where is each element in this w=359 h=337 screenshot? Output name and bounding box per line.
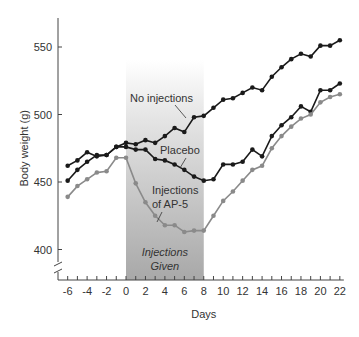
data-point (279, 65, 284, 70)
data-point (153, 141, 158, 146)
data-point (192, 115, 197, 120)
data-point (104, 169, 109, 174)
data-point (192, 228, 197, 233)
data-point (172, 126, 177, 131)
data-point (250, 147, 255, 152)
label-ap5: Injections (152, 184, 199, 196)
data-point (85, 177, 90, 182)
data-point (95, 170, 100, 175)
x-tick-label: 8 (201, 285, 207, 297)
data-point (250, 85, 255, 90)
data-point (318, 43, 323, 48)
data-point (192, 174, 197, 179)
label-ap5: of AP-5 (152, 198, 188, 210)
data-point (279, 134, 284, 139)
y-tick-label: 400 (34, 244, 52, 256)
data-point (133, 181, 138, 186)
data-point (221, 97, 226, 102)
data-point (270, 134, 275, 139)
data-point (114, 155, 119, 160)
data-point (124, 145, 129, 150)
x-tick-label: 12 (237, 285, 249, 297)
data-point (114, 145, 119, 150)
data-point (221, 199, 226, 204)
y-axis-label: Body weight (g) (18, 110, 30, 186)
data-point (318, 88, 323, 93)
data-point (133, 147, 138, 152)
data-point (289, 115, 294, 120)
data-point (270, 146, 275, 151)
data-point (104, 153, 109, 158)
x-tick-label: 6 (181, 285, 187, 297)
data-point (172, 223, 177, 228)
data-point (240, 178, 245, 183)
data-point (260, 154, 265, 159)
data-point (299, 51, 304, 56)
data-point (289, 124, 294, 129)
data-point (75, 168, 80, 173)
data-point (308, 54, 313, 59)
x-axis-label: Days (191, 308, 217, 320)
data-point (182, 168, 187, 173)
data-point (211, 213, 216, 218)
data-point (240, 159, 245, 164)
data-point (328, 95, 333, 100)
data-point (124, 155, 129, 160)
x-tick-label: 22 (334, 285, 346, 297)
data-point (231, 189, 236, 194)
data-point (172, 162, 177, 167)
x-tick-label: -2 (102, 285, 112, 297)
data-point (328, 88, 333, 93)
data-point (201, 114, 206, 119)
data-point (143, 147, 148, 152)
data-point (163, 223, 168, 228)
data-point (143, 200, 148, 205)
data-point (201, 228, 206, 233)
data-point (240, 91, 245, 96)
data-point (163, 134, 168, 139)
data-point (260, 164, 265, 169)
data-point (231, 162, 236, 167)
data-point (133, 142, 138, 147)
data-point (338, 81, 343, 86)
x-tick-label: 20 (314, 285, 326, 297)
data-point (328, 43, 333, 48)
data-point (163, 158, 168, 163)
data-point (153, 213, 158, 218)
line-chart: InjectionsGiven 400450500550-6-4-2024681… (0, 0, 359, 337)
data-point (308, 112, 313, 117)
data-point (153, 157, 158, 162)
y-tick-label: 450 (34, 176, 52, 188)
x-tick-label: 0 (123, 285, 129, 297)
data-point (270, 74, 275, 79)
data-point (318, 100, 323, 105)
data-point (299, 104, 304, 109)
x-tick-label: 2 (142, 285, 148, 297)
data-point (143, 138, 148, 143)
data-point (279, 123, 284, 128)
data-point (75, 158, 80, 163)
x-tick-label: 16 (275, 285, 287, 297)
data-point (231, 96, 236, 101)
data-point (75, 184, 80, 189)
data-point (85, 150, 90, 155)
data-point (124, 141, 129, 146)
data-point (65, 178, 70, 183)
x-tick-label: -4 (82, 285, 92, 297)
data-point (211, 105, 216, 110)
data-point (182, 230, 187, 235)
data-point (250, 168, 255, 173)
data-point (65, 164, 70, 169)
shaded-label: Given (151, 260, 180, 272)
data-point (85, 159, 90, 164)
data-point (299, 116, 304, 121)
shaded-label: Injections (142, 246, 189, 258)
x-tick-label: 14 (256, 285, 268, 297)
data-point (95, 153, 100, 158)
label-placebo: Placebo (160, 144, 200, 156)
data-point (182, 130, 187, 135)
data-point (260, 88, 265, 93)
x-tick-label: 18 (295, 285, 307, 297)
x-tick-label: 10 (217, 285, 229, 297)
x-tick-label: 4 (162, 285, 168, 297)
